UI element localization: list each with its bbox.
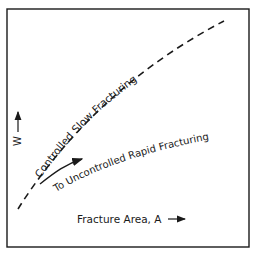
plot-frame: [7, 9, 249, 247]
x-axis-label: Fracture Area, A: [77, 213, 162, 225]
slow-fracturing-curve: [18, 21, 224, 209]
y-axis-label: W: [12, 136, 23, 146]
fracture-diagram: Controlled Slow Fracturing To Uncontroll…: [0, 0, 256, 257]
